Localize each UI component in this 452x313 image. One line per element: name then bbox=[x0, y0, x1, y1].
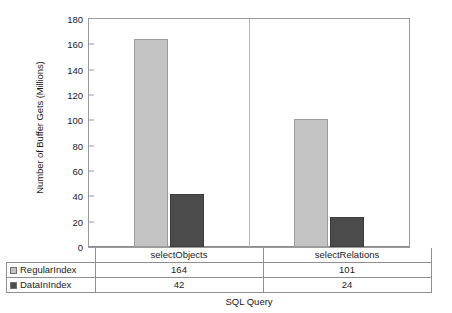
table-row-categories: selectObjectsselectRelations bbox=[7, 248, 432, 263]
y-axis-tick-mark bbox=[89, 171, 94, 172]
legend-label: RegularIndex bbox=[20, 264, 77, 275]
category-separator bbox=[249, 19, 250, 247]
legend-item-regularindex: RegularIndex bbox=[7, 263, 96, 278]
table-category-header: selectRelations bbox=[263, 248, 431, 263]
bar-regularindex-selectrelations bbox=[294, 119, 328, 247]
y-axis-tick-label: 60 bbox=[72, 166, 83, 177]
y-axis-tick-label: 20 bbox=[72, 216, 83, 227]
data-table: selectObjectsselectRelationsRegularIndex… bbox=[6, 248, 432, 293]
plot-area: 020406080100120140160180 bbox=[88, 18, 410, 248]
y-axis-tick-mark bbox=[89, 44, 94, 45]
table-category-header: selectObjects bbox=[95, 248, 263, 263]
y-axis-tick-mark bbox=[89, 120, 94, 121]
chart-figure: Number of Buffer Gets (Millions) 0204060… bbox=[0, 0, 452, 313]
y-axis-tick-label: 120 bbox=[67, 90, 83, 101]
y-axis-tick-mark bbox=[89, 95, 94, 96]
bar-datainindex-selectrelations bbox=[330, 217, 364, 247]
y-axis-tick-label: 160 bbox=[67, 39, 83, 50]
y-axis-tick-label: 100 bbox=[67, 115, 83, 126]
x-axis-title: SQL Query bbox=[88, 296, 410, 307]
table-value-cell: 42 bbox=[95, 278, 263, 293]
y-axis-tick-label: 140 bbox=[67, 64, 83, 75]
plot-inner: 020406080100120140160180 bbox=[89, 19, 409, 247]
legend-item-datainindex: DataInIndex bbox=[7, 278, 96, 293]
y-axis-title: Number of Buffer Gets (Millions) bbox=[34, 23, 45, 233]
table-row: DataInIndex4224 bbox=[7, 278, 432, 293]
legend-label: DataInIndex bbox=[20, 279, 71, 290]
y-axis-tick-mark bbox=[89, 145, 94, 146]
table-corner-cell bbox=[7, 248, 96, 263]
table-row: RegularIndex164101 bbox=[7, 263, 432, 278]
y-axis-tick-label: 80 bbox=[72, 140, 83, 151]
bar-regularindex-selectobjects bbox=[134, 39, 168, 247]
y-axis-tick-mark bbox=[89, 221, 94, 222]
y-axis-tick-label: 40 bbox=[72, 191, 83, 202]
bar-datainindex-selectobjects bbox=[170, 194, 204, 247]
y-axis-tick-label: 180 bbox=[67, 14, 83, 25]
legend-swatch-icon bbox=[10, 282, 17, 289]
table-value-cell: 164 bbox=[95, 263, 263, 278]
y-axis-tick-mark bbox=[89, 69, 94, 70]
legend-swatch-icon bbox=[10, 267, 17, 274]
table-value-cell: 24 bbox=[263, 278, 431, 293]
table-value-cell: 101 bbox=[263, 263, 431, 278]
y-axis-tick-mark bbox=[89, 196, 94, 197]
